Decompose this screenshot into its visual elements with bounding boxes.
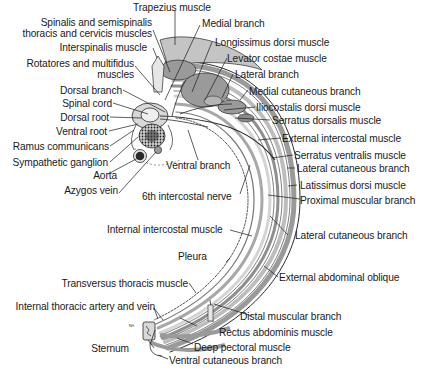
label-internal-intercostal-muscle: Internal intercostal muscle [107, 224, 223, 235]
label-distal-muscular-branch: Distal muscular branch [240, 311, 341, 322]
label-azygos-vein: Azygos vein [10, 185, 118, 196]
label-levator-costae-muscle: Levator costae muscle [227, 53, 327, 64]
label-dorsal-branch: Dorsal branch [10, 85, 122, 96]
label-spinal-cord: Spinal cord [10, 98, 112, 109]
label-serratus-dorsalis-muscle: Serratus dorsalis muscle [272, 115, 381, 126]
label-dorsal-root: Dorsal root [10, 112, 109, 123]
label-spinalis-line1: Spinalis and semispinalis [28, 17, 152, 28]
anatomy-diagram: Trapezius muscle Spinalis and semispinal… [0, 0, 425, 374]
label-proximal-muscular-branch: Proximal muscular branch [300, 195, 415, 206]
great-vessels [134, 146, 162, 162]
label-transversus-thoracis-muscle: Transversus thoracis muscle [10, 278, 188, 289]
label-external-intercostal-muscle: External intercostal muscle [282, 133, 401, 144]
label-ramus-communicans: Ramus communicans [0, 141, 109, 152]
label-rotatores-line1: Rotatores and multifidus [10, 58, 134, 69]
label-medial-branch: Medial branch [202, 18, 265, 29]
label-ventral-cutaneous-branch: Ventral cutaneous branch [169, 355, 282, 366]
label-ventral-branch: Ventral branch [166, 160, 230, 171]
label-spinalis-line2: thoracis and cervicis muscles [10, 28, 152, 39]
label-sympathetic-ganglion: Sympathetic ganglion [0, 157, 108, 168]
label-pleura: Pleura [178, 251, 207, 262]
label-aorta: Aorta [10, 170, 117, 181]
label-serratus-ventralis-muscle: Serratus ventralis muscle [294, 150, 406, 161]
label-internal-thoracic-artery-and-vein: Internal thoracic artery and vein [0, 301, 155, 312]
label-ventral-root: Ventral root [10, 126, 107, 137]
label-medial-cutaneous-branch: Medial cutaneous branch [249, 86, 361, 97]
stray-mark: ᴺᴬ [129, 322, 134, 333]
label-lateral-branch: Lateral branch [235, 69, 299, 80]
label-iliocostalis-dorsi-muscle: Iliocostalis dorsi muscle [256, 102, 361, 113]
label-lateral-cutaneous-branch-lower: Lateral cutaneous branch [295, 230, 408, 241]
label-longissimus-dorsi-muscle: Longissimus dorsi muscle [215, 37, 329, 48]
label-latissimus-dorsi-muscle: Latissimus dorsi muscle [300, 180, 406, 191]
label-lateral-cutaneous-branch-upper: Lateral cutaneous branch [297, 163, 410, 174]
label-sternum: Sternum [10, 343, 129, 354]
label-interspinalis-muscle: Interspinalis muscle [20, 42, 147, 53]
label-rectus-abdominis-muscle: Rectus abdominis muscle [219, 327, 333, 338]
label-rotatores-line2: muscles [10, 69, 134, 80]
label-6th-intercostal-nerve: 6th intercostal nerve [142, 191, 232, 202]
label-trapezius-muscle: Trapezius muscle [133, 2, 211, 13]
label-deep-pectoral-muscle: Deep pectoral muscle [194, 342, 291, 353]
label-external-abdominal-oblique: External abdominal oblique [279, 272, 399, 283]
